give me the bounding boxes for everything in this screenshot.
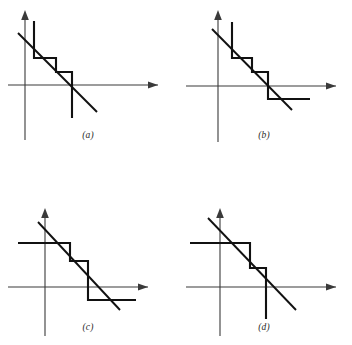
panel-b: (b) [176,0,352,172]
step-function-curve [34,21,72,118]
panel-a: (a) [0,0,176,172]
panel-caption: (b) [176,130,352,140]
x-axis-arrowhead-icon [326,284,336,291]
diagonal-line [208,218,296,310]
x-axis-arrowhead-icon [138,284,148,291]
y-axis-arrowhead-icon [216,208,224,218]
panel-a-diagram [0,0,176,148]
panel-c-diagram [0,194,176,342]
step-function-curve [190,243,266,319]
y-axis-arrowhead-icon [21,10,29,20]
figure-grid: (a) (b) (c) [0,0,352,345]
panel-caption: (a) [0,130,176,140]
step-function-curve [18,243,136,300]
panel-c: (c) [0,172,176,344]
y-axis-arrowhead-icon [214,10,222,20]
x-axis-arrowhead-icon [148,82,158,89]
panel-caption: (c) [0,322,176,332]
diagonal-line [38,222,120,310]
diagonal-line [18,33,97,112]
diagonal-line [212,29,292,110]
x-axis-arrowhead-icon [326,83,336,90]
panel-d-diagram [176,194,352,342]
y-axis-arrowhead-icon [41,208,49,218]
panel-b-diagram [176,0,352,148]
panel-d: (d) [176,172,352,344]
panel-caption: (d) [176,322,352,332]
